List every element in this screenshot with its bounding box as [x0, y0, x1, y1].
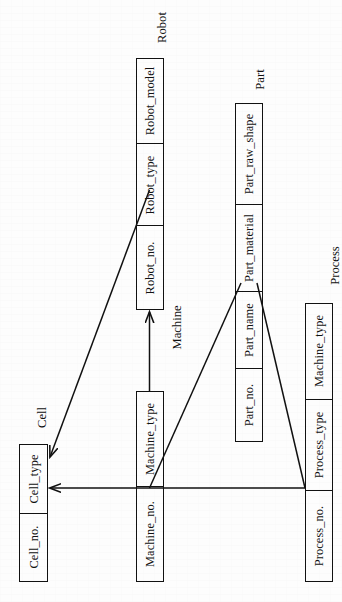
entity-process[interactable]: Machine_type Process_type Process_no. — [305, 303, 333, 582]
edge-machine-to-cell — [50, 190, 150, 457]
attribute-label: Machine_no. — [143, 501, 158, 567]
diagram-canvas: Robot Robot_model Robot_type Robot_no. P… — [0, 0, 342, 602]
entity-title-process: Process — [328, 231, 342, 301]
attribute-process-type: Process_type — [306, 400, 332, 491]
attribute-label: Part_no. — [242, 384, 257, 426]
attribute-label: Cell_no. — [26, 526, 41, 569]
attribute-label: Machine_type — [143, 403, 158, 475]
entity-part[interactable]: Part_raw_shape Part_material Part_name P… — [235, 103, 263, 442]
attribute-cell-no: Cell_no. — [20, 514, 47, 582]
attribute-robot-type: Robot_type — [137, 144, 163, 226]
attribute-label: Cell_type — [26, 454, 41, 503]
attribute-robot-no: Robot_no. — [137, 226, 163, 309]
entity-robot[interactable]: Robot_model Robot_type Robot_no. — [136, 58, 164, 310]
attribute-label: Part_raw_shape — [242, 114, 257, 195]
entity-title-part: Part — [253, 50, 268, 110]
attribute-cell-type: Cell_type — [20, 445, 47, 514]
entity-cell[interactable]: Cell_type Cell_no. — [19, 444, 48, 582]
attribute-part-raw-shape: Part_raw_shape — [236, 104, 262, 205]
attribute-machine-type: Machine_type — [137, 392, 163, 487]
entity-machine[interactable]: Machine_type Machine_no. — [136, 391, 164, 582]
attribute-part-name: Part_name — [236, 292, 262, 369]
attribute-machine-no: Machine_no. — [137, 487, 163, 581]
attribute-process-machine-type: Machine_type — [306, 304, 332, 400]
attribute-robot-model: Robot_model — [137, 59, 163, 144]
attribute-label: Part_name — [242, 303, 257, 357]
attribute-label: Robot_type — [143, 155, 158, 214]
attribute-part-no: Part_no. — [236, 369, 262, 441]
entity-title-robot: Robot — [155, 0, 170, 58]
attribute-label: Machine_type — [312, 315, 327, 387]
entity-title-machine: Machine — [170, 293, 185, 363]
attribute-process-no: Process_no. — [306, 491, 332, 581]
entity-title-cell: Cell — [35, 388, 50, 448]
attribute-label: Process_no. — [312, 506, 327, 567]
attribute-label: Robot_model — [143, 67, 158, 136]
edge-process-to-part — [257, 283, 305, 488]
attribute-label: Robot_no. — [143, 241, 158, 294]
attribute-label: Process_type — [312, 411, 327, 478]
attribute-label: Part_material — [242, 214, 257, 282]
attribute-part-material: Part_material — [236, 205, 262, 292]
